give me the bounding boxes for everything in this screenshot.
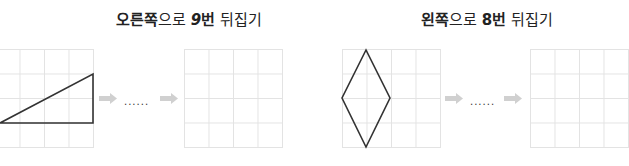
arrow-right-icon [445,93,464,104]
ellipsis-dots: ...... [470,96,495,107]
arrow-right-icon [504,93,523,104]
answer-grid-right[interactable] [530,49,629,148]
